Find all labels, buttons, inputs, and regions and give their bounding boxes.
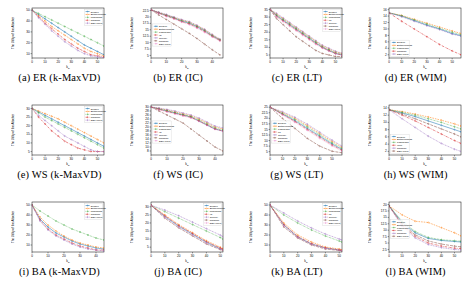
plot-area-g: 57.51012.51517.52022.52501020304050kDThe… xyxy=(249,102,345,166)
plot-svg-e: 5101520253001020304050kDThe Utility of t… xyxy=(11,102,107,166)
y-tick-label: 12 xyxy=(383,113,387,117)
y-axis-title: The Utility of the Attacker xyxy=(131,17,135,49)
x-tick-label: 20 xyxy=(57,60,61,64)
y-tick-label: 24 xyxy=(145,117,149,121)
y-tick-label: 35 xyxy=(264,8,268,12)
y-tick-label: 20 xyxy=(264,30,268,34)
x-tick-label: 20 xyxy=(413,254,417,258)
y-axis-title: The Utility of the Attacker xyxy=(131,114,135,146)
y-tick-label: 14 xyxy=(145,137,149,141)
x-tick-label: 30 xyxy=(195,60,199,64)
y-axis-title: The Utility of the Attacker xyxy=(249,114,253,146)
y-tick-label: 15 xyxy=(264,38,268,42)
plot-area-f: 81012141618202224262830010203040kDThe Ut… xyxy=(130,102,226,166)
y-axis-title: The Utility of the Attacker xyxy=(131,211,135,243)
x-axis-title: kD xyxy=(423,65,427,69)
x-axis-title: kD xyxy=(185,162,189,166)
y-tick-label: 10 xyxy=(264,45,268,49)
x-tick-label: 50 xyxy=(452,157,456,161)
x-tick-label: 30 xyxy=(305,157,309,161)
x-tick-label: 50 xyxy=(450,60,454,64)
x-tick-label: 30 xyxy=(191,254,195,258)
x-tick-label: 0 xyxy=(150,157,152,161)
legend-label: DEF-MILP xyxy=(159,140,171,143)
legend-label: DEF-MILP xyxy=(278,140,290,143)
y-tick-label: 15 xyxy=(383,215,387,219)
y-tick-label: 50 xyxy=(27,203,31,207)
x-tick-label: 30 xyxy=(70,157,74,161)
plot-panel-l: 2.557.51012.51517.52001020304050kDThe Ut… xyxy=(356,194,475,291)
x-axis-title: kD xyxy=(423,162,427,166)
panel-caption-c: (c) ER (LT) xyxy=(272,72,322,83)
y-tick-label: 10 xyxy=(264,243,268,247)
y-tick-label: 20 xyxy=(383,203,387,207)
x-tick-label: 40 xyxy=(439,157,443,161)
legend-label: DEF-MILP xyxy=(159,43,171,46)
y-tick-label: 22.5 xyxy=(262,111,268,115)
x-tick-label: 0 xyxy=(269,157,271,161)
y-tick-label: 5 xyxy=(147,245,149,249)
x-axis-title: kD xyxy=(304,162,308,166)
legend-label: DEF-MILP xyxy=(210,222,222,225)
y-tick-label: 30 xyxy=(27,223,31,227)
y-axis-title: The Utility of the Attacker xyxy=(12,211,16,243)
legend-label: DEF-MILP xyxy=(91,119,103,122)
x-tick-label: 0 xyxy=(388,157,390,161)
panel-caption-e: (e) WS (k-MaxVD) xyxy=(17,169,101,180)
y-tick-label: 8 xyxy=(385,34,387,38)
y-tick-label: 50 xyxy=(27,8,31,12)
y-tick-label: 16 xyxy=(145,133,149,137)
x-tick-label: 40 xyxy=(213,157,217,161)
panel-caption-a: (a) ER (k-MaxVD) xyxy=(18,72,100,83)
panel-caption-k: (k) BA (LT) xyxy=(271,266,322,277)
y-axis-title: The Utility of the Attacker xyxy=(249,211,253,243)
plot-svg-i: 1020304050010203040kDThe Utility of the … xyxy=(11,199,107,263)
legend-label: DEF-MILP xyxy=(91,216,103,219)
x-tick-label: 10 xyxy=(400,157,404,161)
y-tick-label: 10 xyxy=(27,52,31,56)
panel-caption-d: (d) ER (WIM) xyxy=(385,72,447,83)
y-tick-label: 12 xyxy=(383,21,387,25)
x-tick-label: 0 xyxy=(269,254,271,258)
plot-panel-j: 5101520253001020304050kDThe Utility of t… xyxy=(119,194,238,291)
y-tick-label: 28 xyxy=(145,109,149,113)
y-axis-title: The Utility of the Attacker xyxy=(368,211,372,243)
y-tick-label: 20 xyxy=(145,125,149,129)
x-tick-label: 20 xyxy=(177,254,181,258)
y-tick-label: 17.5 xyxy=(262,122,268,126)
x-tick-label: 0 xyxy=(32,60,34,64)
y-tick-label: 10 xyxy=(27,243,31,247)
legend-label: DEF-MILP xyxy=(397,53,409,56)
x-tick-label: 0 xyxy=(388,254,390,258)
y-tick-label: 17.5 xyxy=(380,209,386,213)
legend-label: DEF-MILP xyxy=(397,235,409,238)
legend-label: DEF-MILP xyxy=(91,22,103,25)
plot-area-k: 102030405001020304050kDThe Utility of th… xyxy=(249,199,345,263)
y-tick-label: 10 xyxy=(145,237,149,241)
y-tick-label: 26 xyxy=(145,113,149,117)
legend-label: DEF-MILP xyxy=(397,150,409,153)
y-tick-label: 30 xyxy=(264,223,268,227)
y-tick-label: 50 xyxy=(264,203,268,207)
plot-panel-f: 81012141618202224262830010203040kDThe Ut… xyxy=(119,97,238,194)
y-tick-label: 10 xyxy=(383,27,387,31)
y-tick-label: 12 xyxy=(145,141,149,145)
x-tick-label: 20 xyxy=(57,157,61,161)
x-tick-label: 40 xyxy=(437,60,441,64)
y-tick-label: 7.5 xyxy=(382,235,387,239)
y-tick-label: 30 xyxy=(145,205,149,209)
y-tick-label: 2.5 xyxy=(382,248,387,252)
x-tick-label: 0 xyxy=(32,254,34,258)
y-axis-title: The Utility of the Attacker xyxy=(12,114,16,146)
plot-panel-e: 5101520253001020304050kDThe Utility of t… xyxy=(0,97,119,194)
panel-caption-j: (j) BA (IC) xyxy=(154,266,202,277)
x-axis-title: kD xyxy=(67,259,71,263)
panel-caption-h: (h) WS (WIM) xyxy=(384,169,448,180)
y-tick-label: 15 xyxy=(145,229,149,233)
plot-svg-h: 246810121401020304050kDThe Utility of th… xyxy=(368,102,464,166)
x-tick-label: 0 xyxy=(32,157,34,161)
x-tick-label: 20 xyxy=(412,60,416,64)
y-tick-label: 30 xyxy=(264,15,268,19)
x-tick-label: 50 xyxy=(452,254,456,258)
x-tick-label: 0 xyxy=(269,60,271,64)
